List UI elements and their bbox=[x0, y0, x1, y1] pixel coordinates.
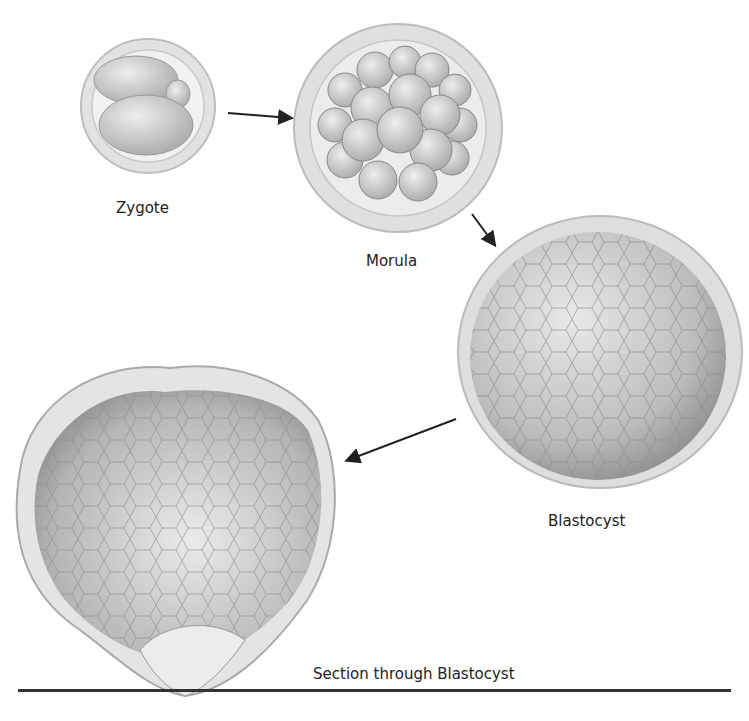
arrow-zygote-to-morula bbox=[228, 113, 290, 118]
blastocyst-illustration bbox=[458, 216, 742, 488]
label-zygote: Zygote bbox=[116, 199, 169, 217]
morula-illustration bbox=[294, 24, 502, 232]
arrow-morula-to-blastocyst bbox=[472, 214, 494, 244]
arrow-blastocyst-to-section bbox=[348, 419, 456, 460]
bottom-divider bbox=[18, 689, 731, 692]
label-morula: Morula bbox=[366, 252, 417, 270]
embryo-diagram bbox=[0, 0, 749, 721]
zygote-illustration bbox=[81, 39, 215, 173]
section-illustration bbox=[17, 366, 335, 696]
label-section-through-blastocyst: Section through Blastocyst bbox=[313, 665, 515, 683]
label-blastocyst: Blastocyst bbox=[548, 512, 625, 530]
